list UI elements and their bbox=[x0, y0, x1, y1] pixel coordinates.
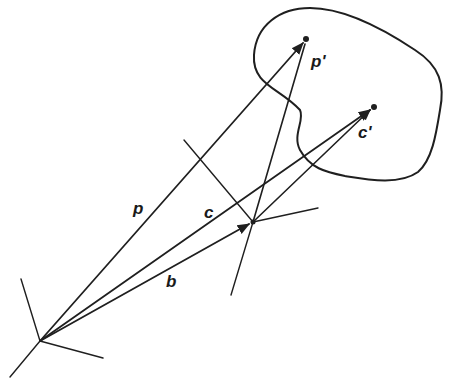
point-p-prime bbox=[303, 36, 309, 42]
diagram-canvas: p c b p' c' bbox=[0, 0, 451, 382]
label-p: p bbox=[133, 200, 143, 217]
label-b: b bbox=[166, 273, 176, 290]
diagram-svg bbox=[0, 0, 451, 382]
label-p-prime: p' bbox=[311, 53, 325, 70]
vector-c bbox=[40, 110, 370, 341]
vector-p bbox=[40, 43, 303, 341]
label-c: c bbox=[204, 204, 213, 221]
label-c-prime: c' bbox=[358, 124, 372, 141]
vector-b bbox=[40, 224, 249, 341]
world-frame-axes bbox=[10, 279, 103, 377]
point-c-prime bbox=[371, 104, 377, 110]
rigid-body-outline bbox=[254, 8, 442, 180]
vector-c-local bbox=[253, 110, 370, 222]
point-body-origin bbox=[251, 220, 256, 225]
